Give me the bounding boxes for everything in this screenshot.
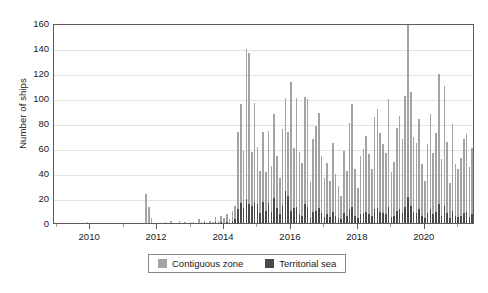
bar-segment-contiguous-zone [460, 158, 462, 216]
bar-column [279, 24, 281, 223]
y-axis-tick-label: 60 [0, 143, 49, 154]
bar-segment-territorial-sea [471, 214, 473, 223]
bar-segment-territorial-sea [413, 212, 415, 223]
bar-segment-territorial-sea [343, 213, 345, 223]
bar-segment-territorial-sea [346, 216, 348, 224]
bar-segment-contiguous-zone [466, 134, 468, 212]
bar-segment-territorial-sea [469, 217, 471, 223]
bar-segment-contiguous-zone [391, 172, 393, 217]
bar-segment-contiguous-zone [285, 98, 287, 191]
x-axis-minor-tick [56, 224, 57, 227]
bar-column [218, 24, 220, 223]
bar-segment-contiguous-zone [410, 92, 412, 206]
bar-segment-territorial-sea [312, 212, 314, 223]
bar-segment-contiguous-zone [432, 153, 434, 214]
bar-segment-contiguous-zone [351, 104, 353, 207]
bar-segment-contiguous-zone [402, 139, 404, 213]
x-axis-tick-label: 2010 [79, 231, 100, 242]
bar-segment-contiguous-zone [290, 82, 292, 211]
legend-item: Territorial sea [265, 258, 336, 269]
bar-column [293, 24, 295, 223]
bar-column [232, 24, 234, 223]
bar-segment-territorial-sea [424, 218, 426, 223]
bar-segment-territorial-sea [240, 203, 242, 223]
bar-segment-territorial-sea [265, 211, 267, 224]
bar-segment-territorial-sea [324, 217, 326, 223]
bar-segment-territorial-sea [402, 213, 404, 223]
bar-segment-territorial-sea [418, 209, 420, 223]
bar-segment-territorial-sea [251, 206, 253, 224]
bar-segment-territorial-sea [399, 209, 401, 223]
bar-column [215, 24, 217, 223]
bar-segment-contiguous-zone [424, 181, 426, 219]
bar-segment-contiguous-zone [179, 221, 181, 224]
bar-segment-territorial-sea [282, 206, 284, 224]
bar-segment-territorial-sea [407, 197, 409, 223]
bar-segment-territorial-sea [304, 204, 306, 223]
bar-segment-territorial-sea [321, 213, 323, 223]
bar-segment-contiguous-zone [457, 169, 459, 217]
y-axis-tick-label: 80 [0, 118, 49, 129]
x-axis-minor-tick [256, 224, 257, 227]
bar-segment-contiguous-zone [338, 186, 340, 219]
bar-column [349, 24, 351, 223]
bar-segment-contiguous-zone [148, 207, 150, 223]
bar-segment-contiguous-zone [452, 124, 454, 210]
bar-column [257, 24, 259, 223]
bar-column [449, 24, 451, 223]
bar-segment-territorial-sea [385, 214, 387, 223]
bar-segment-territorial-sea [279, 214, 281, 223]
bar-segment-territorial-sea [430, 209, 432, 223]
bar-segment-contiguous-zone [312, 139, 314, 212]
bar-column [404, 24, 406, 223]
bar-column [285, 24, 287, 223]
bar-segment-territorial-sea [248, 204, 250, 223]
bar-segment-contiguous-zone [218, 221, 220, 224]
bar-segment-contiguous-zone [271, 166, 273, 212]
x-axis-tick-mark [357, 224, 358, 229]
bar-segment-contiguous-zone [165, 222, 167, 223]
bar-segment-territorial-sea [349, 209, 351, 223]
bar-column [432, 24, 434, 223]
bar-segment-contiguous-zone [365, 136, 367, 212]
bar-segment-territorial-sea [293, 208, 295, 223]
bar-segment-territorial-sea [452, 211, 454, 224]
bar-column [365, 24, 367, 223]
bar-segment-territorial-sea [234, 219, 236, 223]
bar-column [315, 24, 317, 223]
bar-segment-contiguous-zone [441, 159, 443, 215]
legend-swatch-icon [265, 259, 274, 268]
bar-segment-territorial-sea [299, 214, 301, 223]
bar-segment-contiguous-zone [243, 151, 245, 209]
bar-segment-territorial-sea [444, 206, 446, 224]
bar-segment-territorial-sea [257, 204, 259, 223]
bar-segment-territorial-sea [374, 209, 376, 223]
bar-segment-contiguous-zone [346, 171, 348, 216]
bar-segment-territorial-sea [410, 206, 412, 224]
chart-legend: Contiguous zoneTerritorial sea [148, 254, 346, 273]
bar-column [265, 24, 267, 223]
bar-segment-contiguous-zone [371, 169, 373, 215]
bar-column [312, 24, 314, 223]
y-axis-tick-label: 20 [0, 193, 49, 204]
bar-column [410, 24, 412, 223]
bar-segment-territorial-sea [438, 204, 440, 223]
bar-column [371, 24, 373, 223]
bar-column [418, 24, 420, 223]
bar-segment-contiguous-zone [360, 156, 362, 215]
bar-column [248, 24, 250, 223]
bar-segment-contiguous-zone [237, 132, 239, 210]
bar-column [307, 24, 309, 223]
bar-column [296, 24, 298, 223]
bar-column [385, 24, 387, 223]
bar-segment-territorial-sea [315, 211, 317, 224]
bar-column [226, 24, 228, 223]
bar-segment-contiguous-zone [471, 148, 473, 214]
bar-segment-contiguous-zone [332, 143, 334, 212]
bar-segment-territorial-sea [318, 208, 320, 223]
y-axis-tick-label: 140 [0, 43, 49, 54]
bar-column [332, 24, 334, 223]
y-axis-tick-label: 100 [0, 93, 49, 104]
bar-segment-territorial-sea [457, 217, 459, 223]
bar-segment-contiguous-zone [307, 99, 309, 207]
